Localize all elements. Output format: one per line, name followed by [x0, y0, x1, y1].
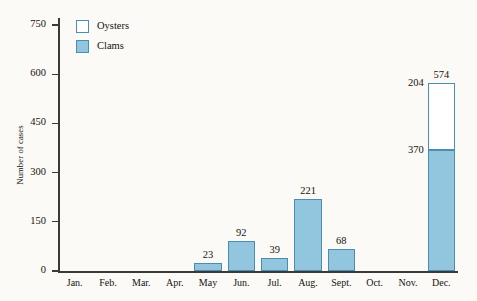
- bar-segment-clams: [428, 150, 455, 271]
- bar-chart: Number of cases 0150300450600750 Oysters…: [0, 0, 477, 301]
- annotation-oysters-204: 204: [392, 78, 424, 89]
- y-tick-label: 150: [0, 216, 46, 227]
- bar-segment-oysters: [428, 83, 455, 150]
- bar-jun[interactable]: [228, 241, 255, 271]
- bar-dec[interactable]: [428, 83, 455, 271]
- legend-swatch-oysters: [76, 20, 89, 33]
- y-tick-label: 300: [0, 167, 46, 178]
- bar-value-label: 221: [286, 186, 330, 197]
- bar-jul[interactable]: [261, 258, 288, 271]
- y-axis-title: Number of cases: [15, 95, 25, 215]
- bar-sept[interactable]: [328, 249, 355, 271]
- bar-value-label: 23: [186, 250, 230, 261]
- legend-swatch-clams: [76, 40, 89, 53]
- y-tick-label: 750: [0, 19, 46, 30]
- bar-segment-clams: [294, 199, 321, 271]
- legend-label: Clams: [97, 41, 124, 52]
- x-label-dec: Dec.: [417, 278, 465, 288]
- legend-label: Oysters: [97, 21, 129, 32]
- y-tick-mark: [52, 172, 59, 173]
- y-tick-label: 0: [0, 265, 46, 276]
- y-tick-mark: [52, 24, 59, 25]
- y-tick-label: 450: [0, 117, 46, 128]
- y-tick-mark: [52, 221, 59, 222]
- bar-value-label: 39: [253, 245, 297, 256]
- annotation-clams-370: 370: [392, 145, 424, 156]
- bar-segment-clams: [228, 241, 255, 271]
- chart-legend: OystersClams: [76, 20, 129, 60]
- legend-item[interactable]: Clams: [76, 40, 129, 53]
- bar-aug[interactable]: [294, 199, 321, 271]
- bar-value-label: 574: [419, 70, 463, 81]
- y-tick-mark: [52, 270, 59, 271]
- y-tick-mark: [52, 123, 59, 124]
- x-axis-line: [58, 271, 458, 273]
- bar-value-label: 68: [319, 236, 363, 247]
- bar-may[interactable]: [194, 263, 221, 271]
- y-axis-line: [58, 18, 60, 272]
- bar-segment-clams: [261, 258, 288, 271]
- y-tick-label: 600: [0, 68, 46, 79]
- bar-segment-clams: [328, 249, 355, 271]
- y-tick-mark: [52, 74, 59, 75]
- legend-item[interactable]: Oysters: [76, 20, 129, 33]
- bar-segment-clams: [194, 263, 221, 271]
- bar-value-label: 92: [219, 228, 263, 239]
